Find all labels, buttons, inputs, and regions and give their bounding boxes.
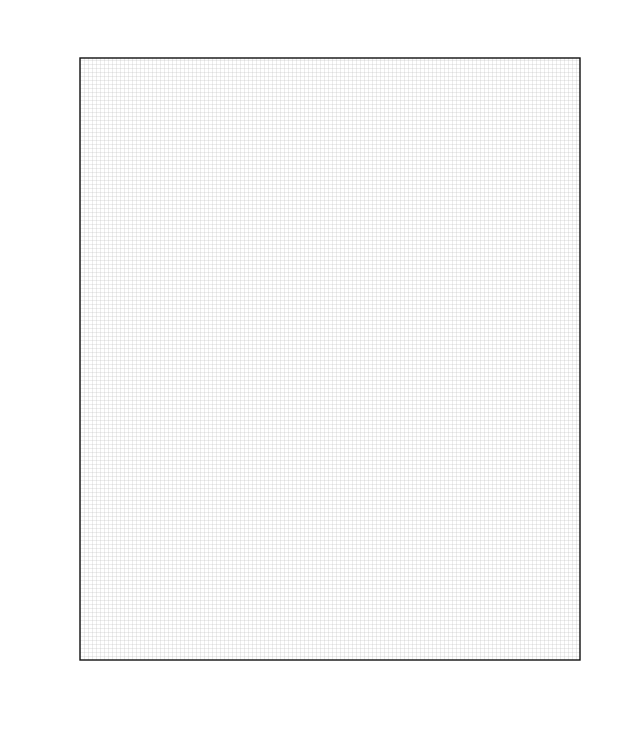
plot-area xyxy=(80,58,580,660)
specific-speed-nomogram xyxy=(0,0,640,747)
